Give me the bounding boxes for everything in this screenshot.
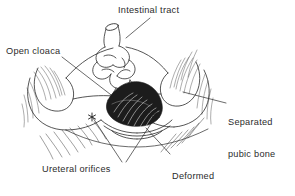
label-phallus-line1: Deformed <box>172 171 214 182</box>
right-hatching <box>170 50 213 124</box>
left-groin-fold <box>28 68 101 130</box>
label-open-cloaca: Open cloaca <box>6 46 60 57</box>
cloacal-plate <box>106 82 162 127</box>
label-separated-pubic-bone: Separated pubic bone <box>228 96 275 180</box>
label-ureteral-orifices: Ureteral orifices <box>42 164 111 175</box>
label-intestinal-tract: Intestinal tract <box>118 5 179 16</box>
label-pubic-line1: Separated <box>228 117 275 128</box>
label-deformed-phallus: Deformed (splayed) phallus <box>172 150 214 196</box>
label-pubic-line2: pubic bone <box>228 149 275 160</box>
right-lower-folds <box>161 118 204 152</box>
left-hatching <box>22 66 65 127</box>
anatomical-illustration: Intestinal tract Open cloaca Separated p… <box>0 0 295 196</box>
leader-intestinal <box>126 18 150 38</box>
